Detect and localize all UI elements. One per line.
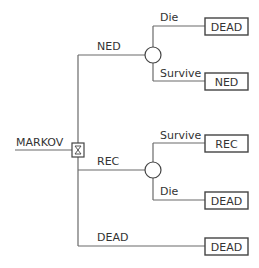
chance-node-icon[interactable] [145, 162, 161, 178]
terminal-node[interactable]: REC [205, 135, 248, 152]
svg-text:NED: NED [215, 76, 239, 89]
branch-label-dead: DEAD [97, 231, 128, 244]
child-label: Die [160, 11, 179, 24]
child-label: Survive [160, 67, 202, 80]
markov-tree-diagram: MARKOV NED Die DEAD Survive NED REC Surv… [0, 0, 259, 268]
child-label: Survive [160, 129, 202, 142]
chance-node-icon[interactable] [145, 47, 161, 63]
svg-text:DEAD: DEAD [211, 241, 242, 254]
terminal-node[interactable]: DEAD [205, 18, 248, 35]
terminal-node[interactable]: NED [205, 73, 248, 90]
child-label: Die [160, 185, 179, 198]
root-label: MARKOV [16, 136, 64, 149]
svg-text:DEAD: DEAD [211, 195, 242, 208]
terminal-node[interactable]: DEAD [205, 238, 248, 255]
svg-text:DEAD: DEAD [211, 21, 242, 34]
branch-label-rec: REC [97, 155, 120, 168]
svg-text:REC: REC [215, 138, 238, 151]
terminal-node[interactable]: DEAD [205, 192, 248, 209]
markov-node-icon[interactable] [72, 143, 84, 157]
branch-label-ned: NED [97, 40, 121, 53]
